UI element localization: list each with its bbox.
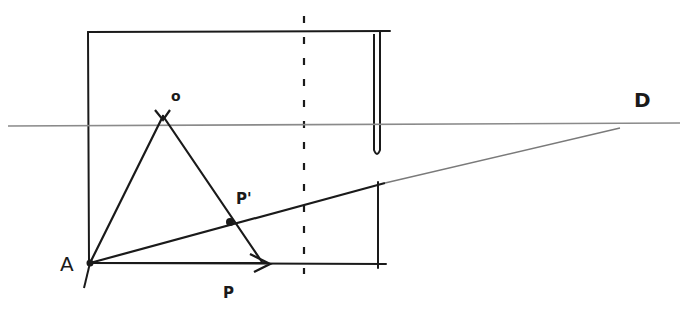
label-p-prime: P' [236, 190, 252, 208]
vanishing-line-faint [385, 128, 620, 183]
right-edge-loop [374, 32, 380, 154]
frame-rectangle [88, 31, 390, 268]
vertex-mark-o [155, 110, 170, 120]
label-d: D [634, 88, 651, 112]
tick-below-a [84, 263, 90, 288]
point-p-prime [226, 218, 234, 226]
point-a [87, 260, 94, 267]
horizon-line [8, 123, 680, 126]
label-p: P [223, 284, 234, 302]
label-o: o [171, 88, 181, 104]
perspective-diagram [0, 0, 685, 312]
label-a: A [60, 252, 74, 276]
